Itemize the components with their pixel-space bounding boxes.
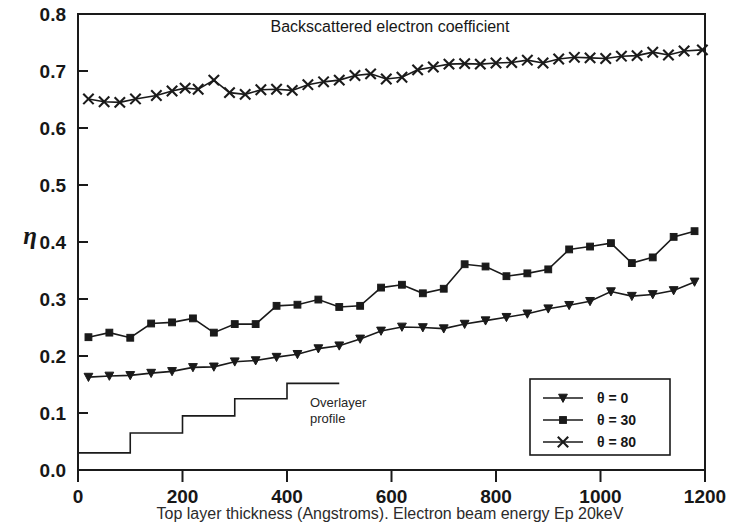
data-point-marker xyxy=(231,321,238,328)
data-point-marker xyxy=(691,228,698,235)
data-point-marker xyxy=(252,321,259,328)
data-point-marker xyxy=(169,319,176,326)
series-line xyxy=(88,50,702,102)
x-tick-label: 1200 xyxy=(684,486,726,507)
data-point-marker xyxy=(587,243,594,250)
y-axis-ticks: 0.00.10.20.30.40.50.60.70.8 xyxy=(40,4,88,481)
data-point-marker xyxy=(378,284,385,291)
data-point-marker xyxy=(85,334,92,341)
data-point-marker xyxy=(670,233,677,240)
data-point-marker xyxy=(461,261,468,268)
series-line xyxy=(88,282,694,377)
series-triangle-down xyxy=(84,278,699,381)
x-tick-label: 600 xyxy=(376,486,408,507)
data-point-marker xyxy=(294,301,301,308)
data-point-marker xyxy=(628,260,635,267)
y-tick-label: 0.2 xyxy=(40,346,66,367)
x-tick-label: 1000 xyxy=(579,486,621,507)
y-tick-label: 0.6 xyxy=(40,118,66,139)
data-point-marker xyxy=(357,302,364,309)
y-tick-label: 0.5 xyxy=(40,175,67,196)
data-point-marker xyxy=(503,273,510,280)
overlayer-annotation-line2: profile xyxy=(310,411,345,426)
series-line xyxy=(88,231,694,338)
data-point-marker xyxy=(524,270,531,277)
y-tick-label: 0.8 xyxy=(40,4,66,25)
figure-caption: Top layer thickness (Angstroms). Electro… xyxy=(157,505,624,522)
legend-label: θ = 80 xyxy=(597,434,636,450)
legend-label: θ = 0 xyxy=(597,390,629,406)
x-tick-label: 0 xyxy=(73,486,84,507)
data-point-marker xyxy=(482,263,489,270)
data-point-marker xyxy=(560,417,567,424)
series-square xyxy=(85,228,698,341)
data-point-marker xyxy=(377,327,386,335)
backscatter-coefficient-chart: 0.00.10.20.30.40.50.60.70.8 020040060080… xyxy=(0,0,730,522)
data-point-marker xyxy=(440,285,447,292)
x-tick-label: 400 xyxy=(271,486,303,507)
data-point-marker xyxy=(566,246,573,253)
data-point-marker xyxy=(273,302,280,309)
data-point-marker xyxy=(315,296,322,303)
legend-label: θ = 30 xyxy=(597,412,636,428)
plot-title: Backscattered electron coefficient xyxy=(271,18,511,35)
y-tick-label: 0.1 xyxy=(40,403,67,424)
data-point-marker xyxy=(545,266,552,273)
overlayer-step-line xyxy=(78,383,339,453)
data-point-marker xyxy=(127,334,134,341)
x-tick-label: 800 xyxy=(480,486,512,507)
data-point-marker xyxy=(608,240,615,247)
data-point-marker xyxy=(148,320,155,327)
data-series-group xyxy=(83,45,707,382)
series-x xyxy=(83,45,707,108)
data-point-marker xyxy=(336,304,343,311)
y-tick-label: 0.0 xyxy=(40,460,66,481)
data-point-marker xyxy=(190,315,197,322)
overlayer-profile-step xyxy=(78,383,339,453)
y-tick-label: 0.7 xyxy=(40,61,66,82)
y-tick-label: 0.3 xyxy=(40,289,66,310)
data-point-marker xyxy=(209,75,219,85)
y-tick-label: 0.4 xyxy=(40,232,67,253)
data-point-marker xyxy=(690,278,699,286)
figure-container: 0.00.10.20.30.40.50.60.70.8 020040060080… xyxy=(0,0,730,522)
overlayer-annotation-line1: Overlayer xyxy=(310,395,367,410)
data-point-marker xyxy=(419,290,426,297)
legend: θ = 0θ = 30θ = 80 xyxy=(530,379,670,455)
x-axis-ticks: 020040060080010001200 xyxy=(73,470,726,507)
data-point-marker xyxy=(106,329,113,336)
y-axis-label: η xyxy=(23,222,37,249)
data-point-marker xyxy=(210,329,217,336)
x-tick-label: 200 xyxy=(167,486,199,507)
data-point-marker xyxy=(649,254,656,261)
data-point-marker xyxy=(399,281,406,288)
